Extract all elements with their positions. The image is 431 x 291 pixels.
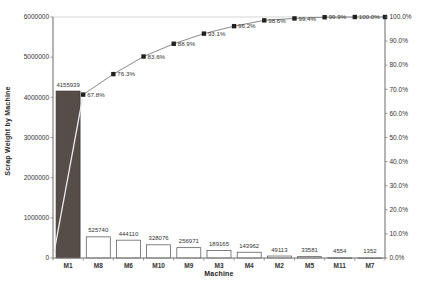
pareto-chart: 67.8%76.3%83.6%88.9%93.1%96.2%98.6%99.4%… xyxy=(0,0,431,291)
cumulative-marker-M3 xyxy=(232,24,236,28)
category-label-M2: M2 xyxy=(275,262,284,269)
bar-M8 xyxy=(86,237,110,258)
cumulative-marker-M1 xyxy=(81,92,85,96)
bar-value-label-M2: 49113 xyxy=(271,247,288,253)
bar-M6 xyxy=(116,240,140,258)
bar-M10 xyxy=(147,245,171,258)
category-label-M4: M4 xyxy=(245,262,254,269)
x-axis-title: Machine xyxy=(119,270,319,280)
cumulative-pct-label-M4: 98.6% xyxy=(268,17,286,24)
y-axis-title: Scrap Weight by Machine xyxy=(4,31,16,231)
bar-value-label-M3: 189165 xyxy=(209,241,230,247)
cumulative-marker-M6 xyxy=(141,54,145,58)
bar-value-label-M5: 33581 xyxy=(301,247,318,253)
category-label-M7: M7 xyxy=(365,262,374,269)
chart-canvas: 67.8%76.3%83.6%88.9%93.1%96.2%98.6%99.4%… xyxy=(0,0,431,291)
cumulative-pct-label-M10: 88.9% xyxy=(178,40,196,47)
left-axis-tick-label: 0 xyxy=(45,254,49,261)
left-axis-tick-label: 5000000 xyxy=(24,53,50,60)
bar-value-label-M7: 1352 xyxy=(363,248,377,254)
right-axis-tick-label: 40.0% xyxy=(390,158,409,165)
cumulative-marker-M2 xyxy=(292,16,296,20)
cumulative-marker-M11 xyxy=(353,15,357,19)
cumulative-marker-M9 xyxy=(202,31,206,35)
cumulative-pct-label-M2: 99.4% xyxy=(298,15,316,22)
cumulative-pct-label-M8: 76.3% xyxy=(117,70,135,77)
left-axis-tick-label: 3000000 xyxy=(24,134,50,141)
right-axis-tick-label: 0.0% xyxy=(390,254,405,261)
left-axis-tick-label: 1000000 xyxy=(24,214,50,221)
bar-value-label-M8: 525740 xyxy=(88,227,109,233)
bar-M4 xyxy=(237,252,261,258)
right-axis-tick-label: 20.0% xyxy=(390,206,409,213)
category-label-M1: M1 xyxy=(64,262,73,269)
bar-value-label-M10: 328076 xyxy=(149,235,170,241)
right-axis-tick-label: 70.0% xyxy=(390,86,409,93)
right-axis-tick-label: 10.0% xyxy=(390,230,409,237)
category-label-M6: M6 xyxy=(124,262,133,269)
category-label-M5: M5 xyxy=(305,262,314,269)
right-axis-tick-label: 30.0% xyxy=(390,182,409,189)
bar-value-label-M11: 4554 xyxy=(333,248,347,254)
bar-value-label-M4: 143962 xyxy=(239,243,260,249)
bar-value-label-M1: 4155939 xyxy=(56,82,80,88)
right-axis-tick-label: 100.0% xyxy=(390,13,412,20)
cumulative-marker-M4 xyxy=(262,18,266,22)
cumulative-marker-M8 xyxy=(111,72,115,76)
category-label-M8: M8 xyxy=(94,262,103,269)
left-axis-tick-label: 2000000 xyxy=(24,174,50,181)
plot-area-border xyxy=(53,17,385,258)
right-axis-tick-label: 50.0% xyxy=(390,134,409,141)
cumulative-pct-label-M5: 99.9% xyxy=(329,13,347,20)
bar-M3 xyxy=(207,250,231,258)
cumulative-pct-label-M1: 67.8% xyxy=(87,91,105,98)
category-label-M9: M9 xyxy=(184,262,193,269)
category-label-M10: M10 xyxy=(152,262,165,269)
cumulative-pct-label-M6: 83.6% xyxy=(148,53,166,60)
right-axis-tick-label: 60.0% xyxy=(390,110,409,117)
category-label-M3: M3 xyxy=(214,262,223,269)
left-axis-tick-label: 6000000 xyxy=(24,13,50,20)
left-axis-tick-label: 4000000 xyxy=(24,94,50,101)
cumulative-marker-M5 xyxy=(322,15,326,19)
cumulative-pct-label-M11: 100.0% xyxy=(359,13,380,20)
cumulative-pct-label-M9: 93.1% xyxy=(208,30,226,37)
bar-M9 xyxy=(177,248,201,258)
right-axis-tick-label: 90.0% xyxy=(390,37,409,44)
category-label-M11: M11 xyxy=(334,262,347,269)
bar-value-label-M6: 444110 xyxy=(119,231,139,237)
cumulative-pct-label-M3: 96.2% xyxy=(238,22,256,29)
right-axis-tick-label: 80.0% xyxy=(390,61,409,68)
bar-value-label-M9: 256971 xyxy=(179,238,200,244)
cumulative-marker-M10 xyxy=(172,42,176,46)
